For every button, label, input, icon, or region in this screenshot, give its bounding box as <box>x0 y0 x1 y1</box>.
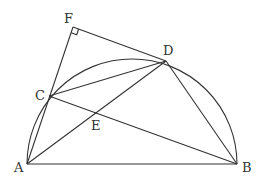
segment-CD <box>49 61 166 96</box>
label-D: D <box>163 43 173 58</box>
label-E: E <box>91 118 101 133</box>
segment-AD <box>27 61 166 164</box>
label-C: C <box>35 88 45 103</box>
geometry-diagram: F D C E A B <box>0 0 263 181</box>
label-A: A <box>13 160 24 175</box>
label-B: B <box>242 160 252 175</box>
segment-DB <box>166 61 237 164</box>
segment-CB <box>49 96 237 164</box>
label-F: F <box>64 11 73 26</box>
semicircle-arc <box>27 59 237 164</box>
segment-FD <box>73 27 166 61</box>
